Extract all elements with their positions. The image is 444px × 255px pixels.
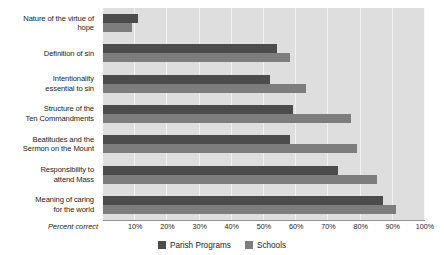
category-label-line: Intentionality [0,74,94,84]
x-tick-label-20: 20% [150,222,184,231]
bar [103,75,270,84]
x-tick-label-100: 100% [408,222,442,231]
category-label-line: hope [0,23,94,33]
bar [103,135,290,144]
bar [103,23,132,32]
bar-group [103,75,425,93]
x-tick-label-70: 70% [311,222,345,231]
category-label-line: Structure of the [0,104,94,114]
plot-area [103,8,425,220]
bar [103,14,138,23]
bar [103,166,338,175]
category-label: Beatitudes and theSermon on the Mount [0,135,94,154]
category-label-line: Sermon on the Mount [0,144,94,154]
x-axis-line [103,220,425,221]
bar [103,144,357,153]
category-label-line: Nature of the virtue of [0,14,94,24]
bar [103,105,293,114]
bar-group [103,105,425,123]
category-label-line: Beatitudes and the [0,135,94,145]
x-tick-label-90: 90% [376,222,410,231]
legend-item: Parish Programs [158,241,231,250]
x-tick-label-80: 80% [344,222,378,231]
category-label: Responsibility toattend Mass [0,165,94,184]
bar-group [103,166,425,184]
category-label: Nature of the virtue ofhope [0,14,94,33]
bar [103,205,396,214]
chart-legend: Parish ProgramsSchools [0,238,444,252]
bar [103,196,383,205]
category-label-line: Responsibility to [0,165,94,175]
category-label: Definition of sin [0,49,94,59]
category-axis: Nature of the virtue ofhopeDefinition of… [0,8,98,220]
bar [103,53,290,62]
category-label: Intentionalityessential to sin [0,74,94,93]
category-label-line: essential to sin [0,84,94,94]
bar [103,44,277,53]
legend-swatch-icon [158,241,166,249]
bar-group [103,135,425,153]
bar [103,114,351,123]
category-label-line: Definition of sin [0,49,94,59]
category-label-line: Ten Commandments [0,114,94,124]
bar-group [103,14,425,32]
legend-item: Schools [245,241,286,250]
bar-group [103,44,425,62]
legend-label: Schools [257,241,286,250]
category-label-line: Meaning of caring [0,195,94,205]
bar [103,175,377,184]
category-label: Meaning of caringfor the world [0,195,94,214]
category-label: Structure of theTen Commandments [0,104,94,123]
bar [103,84,306,93]
x-tick-label-10: 10% [118,222,152,231]
category-label-line: attend Mass [0,175,94,185]
legend-swatch-icon [245,241,253,249]
category-label-line: for the world [0,205,94,215]
bar-group [103,196,425,214]
x-tick-label-40: 40% [215,222,249,231]
bar-chart: Nature of the virtue ofhopeDefinition of… [0,0,444,255]
x-tick-label-60: 60% [279,222,313,231]
x-tick-label-30: 30% [183,222,217,231]
x-tick-label-50: 50% [247,222,281,231]
x-axis-tick-labels: 10%20%30%40%50%60%70%80%90%100% [0,222,444,234]
legend-label: Parish Programs [170,241,231,250]
